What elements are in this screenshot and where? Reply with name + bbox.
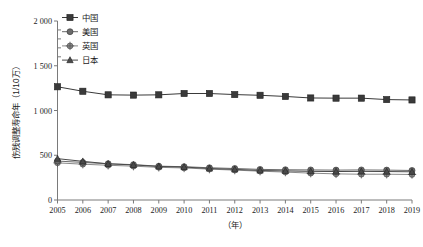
x-tick-label: 2014 [277,206,293,215]
data-point-marker [358,95,364,101]
x-tick-label: 2011 [201,206,217,215]
legend-item-英国[interactable]: 英国 [62,41,98,51]
y-axis-title: 伤残调整寿命年（1/10万） [11,62,21,158]
legend-item-日本[interactable]: 日本 [62,55,99,65]
x-tick-label: 2010 [176,206,192,215]
x-tick-label: 2007 [100,206,116,215]
legend-label: 日本 [82,55,99,65]
series-3 [54,155,415,174]
data-point-marker [282,93,288,99]
data-point-marker [257,92,263,98]
x-tick-label: 2016 [328,206,344,215]
legend-item-美国[interactable]: 美国 [62,27,98,37]
y-tick-label: 0 [48,196,52,205]
data-point-marker [66,42,74,50]
x-tick-label: 2018 [378,206,394,215]
data-point-marker [206,90,212,96]
y-tick-label: 1 000 [34,107,52,116]
data-point-marker [384,96,390,102]
data-point-marker [54,155,60,161]
data-point-marker [232,91,238,97]
legend-label: 英国 [82,41,98,51]
x-axis-title: （年） [223,220,247,230]
data-point-marker [308,95,314,101]
y-tick-label: 500 [40,151,52,160]
y-tick-label: 1 500 [34,62,52,71]
data-point-marker [409,97,415,103]
data-point-marker [156,92,162,98]
series-0 [54,84,415,103]
x-tick-label: 2019 [404,206,420,215]
data-point-marker [67,29,73,35]
data-point-marker [54,84,60,90]
y-axis: 05001 0001 5002 000 [34,17,61,205]
data-point-marker [333,95,339,101]
x-tick-label: 2017 [353,206,369,215]
x-tick-label: 2012 [227,206,243,215]
data-point-marker [80,88,86,94]
legend-label: 中国 [82,13,98,23]
data-point-marker [105,92,111,98]
x-tick-label: 2009 [151,206,167,215]
line-chart-svg: 05001 0001 5002 000 20052006200720082009… [0,0,423,247]
x-tick-label: 2015 [303,206,319,215]
x-tick-label: 2005 [49,206,65,215]
x-axis: 2005200620072008200920102011201220132014… [49,200,420,215]
x-tick-label: 2008 [125,206,141,215]
x-tick-label: 2006 [75,206,91,215]
legend-item-中国[interactable]: 中国 [62,13,98,23]
data-point-marker [181,90,187,96]
y-tick-label: 2 000 [34,17,52,26]
x-tick-label: 2013 [252,206,268,215]
data-point-marker [67,14,73,20]
data-point-marker [130,92,136,98]
chart-legend: 中国美国英国日本 [62,13,99,66]
data-series-group [53,84,416,179]
chart-container: 05001 0001 5002 000 20052006200720082009… [0,0,423,247]
legend-label: 美国 [82,27,98,37]
